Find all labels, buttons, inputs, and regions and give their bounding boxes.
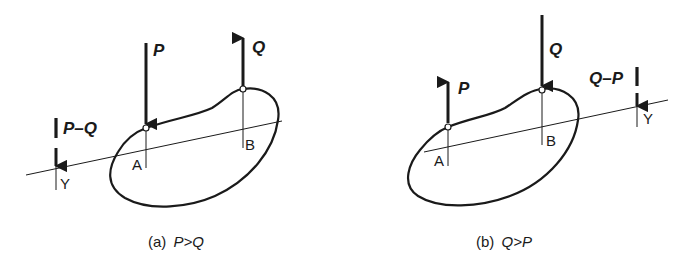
point-y-label: Y [60,175,70,192]
point-a-marker-icon [445,124,451,130]
point-y-label: Y [643,110,653,127]
force-q-label: Q [252,38,265,57]
diagram-canvas: P Q P–Q A B Y (a) P>Q P Q Q– [0,0,684,267]
point-b-label: B [245,136,255,153]
point-a-label: A [434,152,444,169]
force-diagrams: P Q P–Q A B Y (a) P>Q P Q Q– [0,0,684,267]
point-b-marker-icon [240,86,246,92]
point-b-marker-icon [539,87,545,93]
force-p-label: P [153,41,165,60]
caption-a: (a) P>Q [148,233,204,250]
force-q-label: Q [549,40,562,59]
figure-a: P Q P–Q A B Y (a) P>Q [26,38,282,250]
caption-a-condition: P>Q [174,233,205,250]
caption-b: (b) Q>P [476,233,532,250]
point-b-label: B [546,132,556,149]
figure-b: P Q Q–P A B Y (b) Q>P [408,15,668,250]
resultant-label: Q–P [589,69,624,88]
point-a-marker-icon [143,125,149,131]
force-p-label: P [458,79,470,98]
caption-b-prefix: (b) [476,233,494,250]
caption-a-prefix: (a) [148,233,166,250]
resultant-label: P–Q [63,119,97,138]
caption-b-condition: Q>P [502,233,532,250]
point-a-label: A [132,156,142,173]
